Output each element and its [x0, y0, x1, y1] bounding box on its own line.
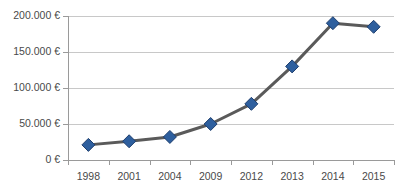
data-point-marker	[123, 135, 136, 148]
series-line	[88, 23, 373, 145]
series-markers	[82, 17, 380, 152]
series-layer	[0, 0, 402, 196]
data-point-marker	[82, 138, 95, 151]
data-point-marker	[204, 118, 217, 131]
line-chart: 0 €50.000 €100.000 €150.000 €200.000 € 1…	[0, 0, 402, 196]
data-point-marker	[163, 130, 176, 143]
data-point-marker	[367, 20, 380, 33]
